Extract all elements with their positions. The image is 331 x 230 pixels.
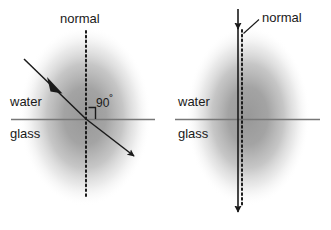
angle-value: 90: [96, 96, 109, 110]
label-water-right: water: [178, 95, 210, 108]
background-blobs: [19, 26, 310, 206]
label-water-left: water: [10, 95, 42, 108]
label-normal-left: normal: [60, 12, 100, 25]
degree-symbol: ˚: [109, 93, 113, 107]
refraction-diagram-figure: [0, 0, 331, 230]
label-angle-90-degrees: 90˚: [96, 94, 113, 109]
label-normal-right: normal: [262, 11, 302, 24]
label-glass-right: glass: [178, 127, 208, 140]
blob-right: [186, 26, 310, 206]
blob-left: [19, 26, 151, 206]
label-glass-left: glass: [10, 127, 40, 140]
